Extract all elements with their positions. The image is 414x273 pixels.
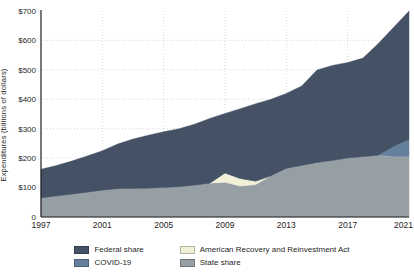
legend: Federal shareCOVID-19American Recovery a… (0, 243, 414, 269)
x-tick-label: 2001 (93, 220, 112, 230)
legend-label: COVID-19 (94, 258, 131, 267)
legend-label: American Recovery and Reinvestment Act (200, 245, 350, 254)
y-tick-label: $700 (18, 7, 36, 16)
legend-item-federal-share: Federal share (74, 243, 143, 256)
y-tick-label: $500 (18, 66, 36, 75)
y-axis-title: Expenditures (billions of dollars) (0, 25, 9, 225)
x-tick-label: 2017 (338, 220, 357, 230)
chart-figure: Expenditures (billions of dollars) 0$100… (0, 0, 414, 273)
y-tick-label: $400 (18, 95, 36, 104)
plot-area: 0$100$200$300$400$500$600$70019972001200… (0, 0, 414, 240)
x-tick-label: 2009 (216, 220, 235, 230)
x-tick-label: 2013 (277, 220, 296, 230)
legend-item-american-recovery-and-reinvestment-act: American Recovery and Reinvestment Act (180, 243, 350, 256)
x-tick-label: 2005 (154, 220, 173, 230)
y-tick-label: $300 (18, 125, 36, 134)
legend-swatch (180, 246, 195, 254)
y-tick-label: $200 (18, 154, 36, 163)
y-tick-label: $100 (18, 183, 36, 192)
legend-label: Federal share (94, 245, 143, 254)
legend-swatch (74, 246, 89, 254)
y-tick-label: $600 (18, 36, 36, 45)
x-tick-label: 1997 (32, 220, 51, 230)
legend-swatch (74, 259, 89, 267)
legend-swatch (180, 259, 195, 267)
legend-item-covid-19: COVID-19 (74, 256, 143, 269)
legend-item-state-share: State share (180, 256, 350, 269)
x-tick-label: 2021 (394, 220, 413, 230)
legend-label: State share (200, 258, 241, 267)
